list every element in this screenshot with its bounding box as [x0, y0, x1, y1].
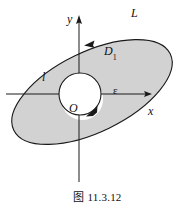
- label-region-subscript: 1: [113, 53, 117, 62]
- label-outer-curve: L: [131, 7, 138, 19]
- figure-container: L D1 l ε O x y 图 11.3.12: [0, 0, 195, 215]
- figure-caption: 图 11.3.12: [0, 188, 195, 204]
- label-inner-curve: l: [42, 71, 45, 83]
- label-region-letter: D: [104, 44, 113, 58]
- label-radius-epsilon: ε: [113, 85, 118, 96]
- label-x-axis: x: [148, 105, 153, 117]
- figure-drawing: [0, 0, 195, 215]
- label-region-d1: D1: [104, 45, 117, 60]
- label-origin: O: [69, 102, 78, 114]
- outer-curve-orientation-arrowhead-icon: [84, 41, 95, 49]
- label-y-axis: y: [67, 13, 72, 25]
